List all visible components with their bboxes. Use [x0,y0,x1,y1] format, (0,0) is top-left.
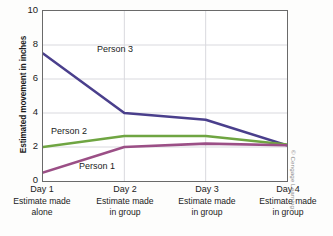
x-sub-label-4a: Estimate made [233,196,333,207]
chart-figure: Estimated movement in inches 10 8 6 4 2 … [0,0,333,236]
x-day-label-4: Day 4 [233,184,333,196]
y-tick-4: 4 [18,107,38,117]
y-tick-8: 8 [18,39,38,49]
copyright-credit: © Cengage Learning [290,150,297,236]
x-axis-labels: Day 1 Estimate made alone Day 2 Estimate… [42,184,288,234]
y-tick-6: 6 [18,73,38,83]
gridlines [43,11,287,181]
series-label-person3: Person 3 [97,44,133,54]
x-sub-label-4b: in group [233,207,333,218]
chart-canvas [43,11,287,181]
y-tick-2: 2 [18,141,38,151]
series-label-person2: Person 2 [51,126,87,136]
x-group-day-4: Day 4 Estimate made in group [233,184,333,219]
y-tick-10: 10 [18,5,38,15]
series-label-person1: Person 1 [79,161,115,171]
plot-area: Person 3 Person 2 Person 1 [42,10,288,182]
